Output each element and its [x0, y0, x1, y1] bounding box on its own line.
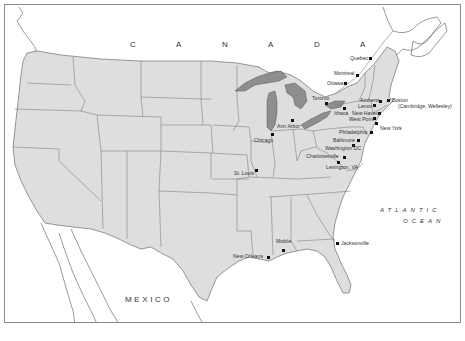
city-label-ann-arbor: Ann Arbor — [277, 124, 300, 129]
baja-inner — [59, 233, 97, 323]
nova-scotia — [411, 23, 447, 57]
canada-letter: D — [314, 40, 360, 49]
city-marker-ann-arbor[interactable] — [291, 119, 294, 122]
city-marker-charlottesville[interactable] — [343, 156, 346, 159]
city-label-montreal: Montreal — [334, 71, 354, 76]
canada-letter: C — [130, 40, 176, 49]
canada-letter: A — [268, 40, 314, 49]
canada-letter: A — [360, 40, 406, 49]
label-ocean: OCEAN — [403, 218, 444, 224]
city-marker-st-louis[interactable] — [255, 169, 258, 172]
city-label-ottawa: Ottawa — [327, 81, 343, 86]
baja-coast — [41, 223, 75, 323]
city-marker-philadelphia[interactable] — [370, 131, 373, 134]
city-marker-montreal[interactable] — [356, 74, 359, 77]
mexico-gulf-coast — [191, 301, 203, 323]
city-label-new-orleans: New Orleans — [233, 254, 263, 259]
city-label-ithaca: Ithaca — [334, 111, 348, 116]
label-mexico: MEXICO — [125, 295, 172, 304]
city-label-lenox: Lenox — [358, 104, 372, 109]
city-marker-mobile[interactable] — [282, 249, 285, 252]
city-marker-new-york[interactable] — [375, 122, 378, 125]
mexico-mainland-coast — [71, 229, 119, 323]
city-label-charlottesville: Charlottesville — [306, 154, 339, 159]
city-marker-toronto[interactable] — [325, 102, 328, 105]
city-marker-new-orleans[interactable] — [267, 256, 270, 259]
city-label-quebec: Quebec — [350, 56, 368, 61]
label-atlantic: ATLANTIC — [380, 207, 441, 213]
city-marker-amherst[interactable] — [379, 100, 382, 103]
canada-letter: N — [222, 40, 268, 49]
city-marker-baltimore[interactable] — [357, 139, 360, 142]
city-marker-boston[interactable] — [387, 99, 390, 102]
city-marker-quebec[interactable] — [369, 57, 372, 60]
map-frame: CANADA MEXICO ATLANTIC OCEAN Quebec Mont… — [4, 4, 461, 323]
city-label-mobile: Mobile — [276, 239, 291, 244]
city-label-baltimore: Baltimore — [333, 138, 355, 143]
city-label-boston-note: (Cambridge, Wellesley) — [398, 104, 452, 109]
city-label-west-point: West Point — [349, 117, 374, 122]
city-marker-lenox[interactable] — [373, 104, 376, 107]
city-label-jacksonville: Jacksonville — [341, 241, 369, 246]
city-label-philadelphia: Philadelphia — [339, 130, 367, 135]
us-map — [5, 5, 461, 323]
city-label-st-louis: St. Louis — [234, 171, 254, 176]
city-marker-ottawa[interactable] — [344, 82, 347, 85]
canada-letter: A — [176, 40, 222, 49]
city-marker-jacksonville[interactable] — [336, 242, 339, 245]
city-label-toronto: Toronto — [312, 96, 329, 101]
city-label-washington-dc: Washington DC — [325, 146, 361, 151]
city-label-chicago: Chicago — [254, 138, 273, 143]
city-label-new-york: New York — [380, 126, 402, 131]
city-label-lexington-va: Lexington, VA — [326, 165, 358, 170]
city-marker-chicago[interactable] — [271, 133, 274, 136]
label-canada: CANADA — [130, 33, 406, 51]
